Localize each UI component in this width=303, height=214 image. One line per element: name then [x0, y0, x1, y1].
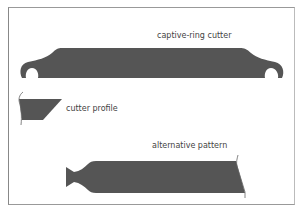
- label-cutter-profile: cutter profile: [66, 104, 118, 113]
- label-captive-ring-cutter: captive-ring cutter: [157, 31, 231, 40]
- cutter-profile-shape: [19, 99, 62, 120]
- alternative-pattern-shape: [66, 161, 245, 193]
- diagram-canvas: [0, 0, 303, 214]
- captive-ring-cutter-shape: [20, 48, 283, 78]
- label-alternative-pattern: alternative pattern: [152, 141, 227, 150]
